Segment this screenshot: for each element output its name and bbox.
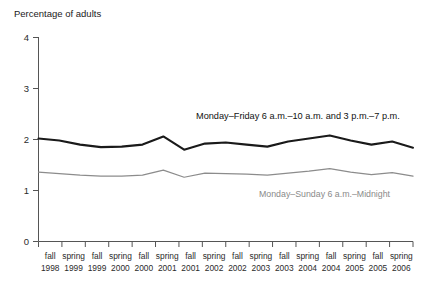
x-tick-season-15: spring xyxy=(390,251,413,261)
x-tick-year-4: 2000 xyxy=(135,263,154,273)
x-tick-season-13: spring xyxy=(343,251,366,261)
x-tick-year-13: 2005 xyxy=(345,263,364,273)
line-chart: Percentage of adults 4 3 2 1 0 fall1998s… xyxy=(0,0,432,288)
x-tick-season-5: spring xyxy=(156,251,179,261)
x-tick-year-3: 2000 xyxy=(111,263,130,273)
y-tick-label-1: 1 xyxy=(24,185,29,196)
x-tick-year-6: 2001 xyxy=(181,263,200,273)
y-tick-label-4: 4 xyxy=(24,32,29,43)
x-tick-season-14: fall xyxy=(373,251,384,261)
y-tick-labels: 4 3 2 1 0 xyxy=(24,32,29,247)
x-tick-season-3: spring xyxy=(109,251,132,261)
y-tick-label-3: 3 xyxy=(24,83,29,94)
chart-container: Percentage of adults 4 3 2 1 0 fall1998s… xyxy=(0,0,432,288)
x-tick-season-12: fall xyxy=(326,251,337,261)
x-tick-year-10: 2003 xyxy=(275,263,294,273)
x-tick-labels: fall1998spring1999fall1999spring2000fall… xyxy=(41,251,413,273)
x-tick-year-2: 1999 xyxy=(88,263,107,273)
x-tick-year-14: 2005 xyxy=(369,263,388,273)
x-tick-season-0: fall xyxy=(45,251,56,261)
x-tick-season-6: fall xyxy=(185,251,196,261)
x-tick-season-9: spring xyxy=(249,251,272,261)
x-tick-season-7: spring xyxy=(203,251,226,261)
x-tick-season-4: fall xyxy=(138,251,149,261)
x-tick-season-8: fall xyxy=(232,251,243,261)
y-axis-title: Percentage of adults xyxy=(14,8,101,19)
y-tick-label-0: 0 xyxy=(24,236,29,247)
x-tick-year-11: 2004 xyxy=(298,263,317,273)
y-tick-marks xyxy=(33,38,39,242)
x-tick-marks xyxy=(39,242,414,248)
x-tick-season-10: fall xyxy=(279,251,290,261)
series-line-monday-friday xyxy=(39,135,414,149)
x-tick-year-8: 2002 xyxy=(228,263,247,273)
x-tick-season-2: fall xyxy=(92,251,103,261)
series-label-allweek: Monday–Sunday 6 a.m.–Midnight xyxy=(259,189,391,199)
y-tick-label-2: 2 xyxy=(24,134,29,145)
x-tick-year-5: 2001 xyxy=(158,263,177,273)
x-tick-year-12: 2004 xyxy=(322,263,341,273)
x-tick-season-11: spring xyxy=(296,251,319,261)
x-tick-year-15: 2006 xyxy=(392,263,411,273)
x-tick-year-0: 1998 xyxy=(41,263,60,273)
x-tick-year-7: 2002 xyxy=(205,263,224,273)
series-line-monday-sunday xyxy=(39,169,414,178)
x-tick-year-9: 2003 xyxy=(252,263,271,273)
x-tick-season-1: spring xyxy=(62,251,85,261)
series-label-weekday: Monday–Friday 6 a.m.–10 a.m. and 3 p.m.–… xyxy=(196,111,400,121)
x-tick-year-1: 1999 xyxy=(64,263,83,273)
